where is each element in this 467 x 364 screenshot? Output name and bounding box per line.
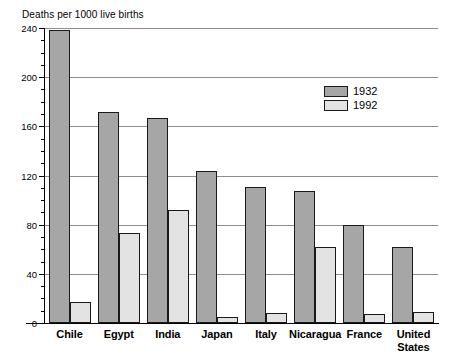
y-axis-minor-tick xyxy=(41,298,45,299)
y-axis-tick-label: 80 xyxy=(3,220,37,231)
x-axis-category-label: UnitedStates xyxy=(383,328,444,353)
bar xyxy=(294,191,315,323)
gridline xyxy=(45,77,438,78)
x-axis-category-label-line: States xyxy=(383,341,444,354)
y-axis-major-tick xyxy=(39,126,45,127)
y-axis-minor-tick xyxy=(41,53,45,54)
y-axis-minor-tick xyxy=(41,139,45,140)
bar xyxy=(413,312,434,323)
y-axis-minor-tick xyxy=(41,262,45,263)
y-axis-minor-tick xyxy=(41,286,45,287)
y-axis-major-tick xyxy=(39,28,45,29)
x-axis-category-label-line: United xyxy=(383,328,444,341)
bar xyxy=(49,30,70,323)
legend-label: 1932 xyxy=(353,85,377,97)
y-axis-tick-label: 240 xyxy=(3,23,37,34)
y-axis-minor-tick xyxy=(41,311,45,312)
y-axis-tick-label: 200 xyxy=(3,72,37,83)
bar xyxy=(315,247,336,323)
chart-legend: 19321992 xyxy=(324,85,377,113)
y-axis-major-tick xyxy=(39,225,45,226)
legend-item: 1932 xyxy=(324,85,377,97)
y-axis-minor-tick xyxy=(41,163,45,164)
bar xyxy=(392,247,413,323)
y-axis-minor-tick xyxy=(41,89,45,90)
legend-label: 1992 xyxy=(353,99,377,111)
bar xyxy=(343,225,364,323)
y-axis-minor-tick xyxy=(41,200,45,201)
y-axis-minor-tick xyxy=(41,188,45,189)
y-axis-tick-label: 40 xyxy=(3,269,37,280)
bar xyxy=(364,314,385,323)
bar xyxy=(168,210,189,323)
bar xyxy=(147,118,168,323)
y-axis-minor-tick xyxy=(41,114,45,115)
y-axis-tick-label: 120 xyxy=(3,171,37,182)
y-axis-minor-tick xyxy=(41,249,45,250)
chart-axis-title: Deaths per 1000 live births xyxy=(22,9,144,20)
y-axis-tick-labels: 04080120160200240 xyxy=(0,0,37,364)
bar xyxy=(245,187,266,323)
y-axis-minor-tick xyxy=(41,102,45,103)
y-axis-minor-tick xyxy=(41,151,45,152)
legend-swatch xyxy=(324,100,348,111)
y-axis-major-tick xyxy=(39,77,45,78)
plot-area xyxy=(45,28,438,323)
bar xyxy=(266,313,287,323)
gridline xyxy=(45,28,438,29)
legend-swatch xyxy=(324,86,348,97)
y-axis-minor-tick xyxy=(41,237,45,238)
y-axis-major-tick xyxy=(39,323,45,324)
y-axis-major-tick xyxy=(39,176,45,177)
bar xyxy=(119,233,140,323)
y-axis-minor-tick xyxy=(41,40,45,41)
bar xyxy=(196,171,217,323)
bar-chart: Deaths per 1000 live births 040801201602… xyxy=(0,0,467,364)
x-axis-line xyxy=(26,323,439,324)
legend-item: 1992 xyxy=(324,99,377,111)
bar xyxy=(98,112,119,323)
bar xyxy=(70,302,91,323)
y-axis-major-tick xyxy=(39,274,45,275)
y-axis-minor-tick xyxy=(41,65,45,66)
y-axis-tick-label: 160 xyxy=(3,121,37,132)
y-axis-minor-tick xyxy=(41,212,45,213)
